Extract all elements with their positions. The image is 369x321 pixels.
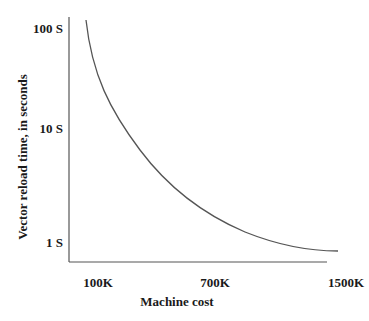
- y-tick-100s: 100 S: [33, 21, 63, 36]
- y-tick-10s: 10 S: [40, 121, 63, 136]
- data-curve: [86, 20, 338, 251]
- y-tick-1s: 1 S: [46, 235, 63, 250]
- chart: 100 S 10 S 1 S 100K 700K 1500K Machine c…: [0, 0, 369, 321]
- x-axis-title: Machine cost: [140, 294, 214, 309]
- x-tick-100k: 100K: [83, 275, 114, 290]
- y-axis-title: Vector reload time, in seconds: [15, 74, 30, 240]
- x-tick-700k: 700K: [200, 275, 231, 290]
- x-tick-1500k: 1500K: [328, 275, 365, 290]
